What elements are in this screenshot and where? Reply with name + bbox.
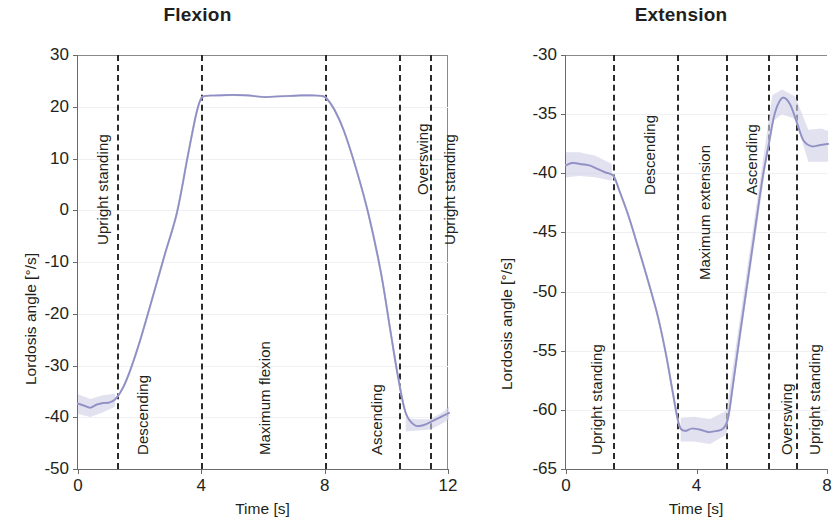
panel-flexion: Flexion Lordosis angle [°/s] 30 20 10 0 … bbox=[0, 0, 455, 527]
y-tick-label: -40 bbox=[44, 407, 69, 427]
y-tick-label: -30 bbox=[532, 45, 557, 65]
x-axis-label-flexion: Time [s] bbox=[77, 500, 448, 518]
y-tick-label: 10 bbox=[50, 149, 69, 169]
y-tick-label: 20 bbox=[50, 97, 69, 117]
x-tick-label: 4 bbox=[197, 476, 206, 496]
x-tick-label: 4 bbox=[692, 476, 701, 496]
data-trace-flexion bbox=[78, 55, 449, 470]
y-tick-label: -45 bbox=[532, 222, 557, 242]
data-trace-extension bbox=[566, 55, 828, 470]
y-tick-label: -55 bbox=[532, 341, 557, 361]
x-tick-label: 8 bbox=[320, 476, 329, 496]
y-axis-label-flexion: Lordosis angle [°/s] bbox=[22, 253, 40, 385]
x-tick-label: 0 bbox=[561, 476, 570, 496]
x-tick-label: 0 bbox=[73, 476, 82, 496]
y-tick-label: -65 bbox=[532, 459, 557, 479]
plot-area-extension: -30 -35 -40 -45 -50 -55 -60 -65 0 4 8 bbox=[565, 55, 827, 470]
y-tick-label: -50 bbox=[532, 282, 557, 302]
y-tick-label: -20 bbox=[44, 304, 69, 324]
y-axis-label-extension: Lordosis angle [°/s] bbox=[498, 258, 516, 390]
panel-title-flexion: Flexion bbox=[0, 4, 425, 26]
y-tick-label: 0 bbox=[60, 200, 69, 220]
x-axis-label-extension: Time [s] bbox=[565, 500, 827, 518]
y-tick-label: -10 bbox=[44, 252, 69, 272]
plot-area-flexion: 30 20 10 0 -10 -20 -30 -40 -50 0 4 8 bbox=[77, 55, 448, 470]
y-tick-label: 30 bbox=[50, 45, 69, 65]
x-tick-label: 8 bbox=[822, 476, 831, 496]
panel-title-extension: Extension bbox=[495, 4, 836, 26]
y-tick-label: -60 bbox=[532, 400, 557, 420]
y-tick-label: -30 bbox=[44, 356, 69, 376]
panel-extension: Extension Lordosis angle [°/s] -30 -35 -… bbox=[455, 0, 827, 527]
y-tick-label: -50 bbox=[44, 459, 69, 479]
y-tick-label: -40 bbox=[532, 163, 557, 183]
y-tick-label: -35 bbox=[532, 104, 557, 124]
